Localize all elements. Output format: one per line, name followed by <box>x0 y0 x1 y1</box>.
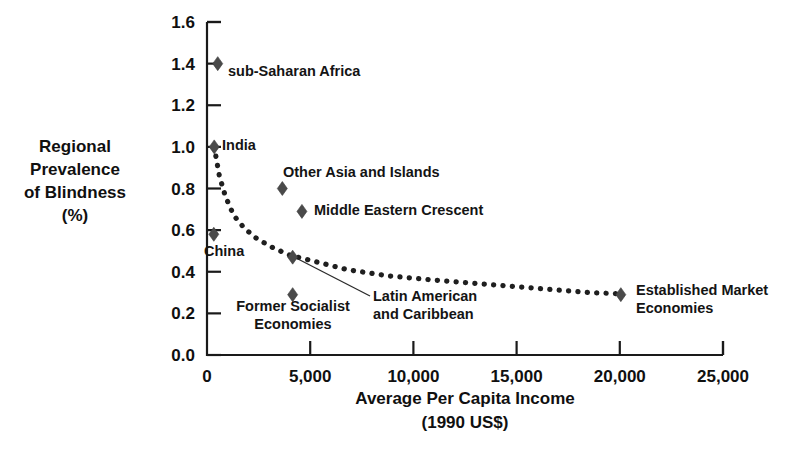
y-tick-label: 0.2 <box>171 304 195 323</box>
chart-canvas: Regional Prevalence of Blindness (%) 0.0… <box>0 0 799 454</box>
y-axis: 0.00.20.40.60.81.01.21.41.6 <box>171 13 221 365</box>
label-middle-eastern-crescent: Middle Eastern Crescent <box>314 202 483 218</box>
data-point-marker <box>297 204 307 218</box>
y-tick-label: 0.0 <box>171 346 195 365</box>
x-tick-label: 10,000 <box>387 367 439 386</box>
label-sub-saharan-africa: sub-Saharan Africa <box>228 63 361 79</box>
x-tick-label: 15,000 <box>491 367 543 386</box>
label-other-asia-and-islands: Other Asia and Islands <box>283 164 440 180</box>
x-axis: 05,00010,00015,00020,00025,000 <box>202 341 749 386</box>
label-former-socialist-line-2: Economies <box>254 316 331 332</box>
data-point-marker <box>213 57 223 71</box>
y-tick-label: 1.4 <box>171 55 195 74</box>
y-axis-title-line-4: (%) <box>62 206 88 225</box>
x-tick-label: 0 <box>202 367 211 386</box>
data-point-marker <box>616 288 626 302</box>
x-tick-label: 5,000 <box>289 367 332 386</box>
label-latin-american-line-1: Latin American <box>373 288 477 304</box>
label-china: China <box>204 243 245 259</box>
y-axis-title-line-1: Regional <box>39 137 111 156</box>
x-tick-label: 25,000 <box>697 367 749 386</box>
label-former-socialist-line-1: Former Socialist <box>236 298 350 314</box>
y-tick-label: 0.6 <box>171 221 195 240</box>
label-latin-american-line-2: and Caribbean <box>373 306 474 322</box>
label-india: India <box>222 137 257 153</box>
x-tick-label: 20,000 <box>594 367 646 386</box>
y-tick-label: 0.8 <box>171 180 195 199</box>
data-point-marker <box>288 250 298 264</box>
y-axis-title-line-3: of Blindness <box>24 183 126 202</box>
y-tick-label: 0.4 <box>171 263 195 282</box>
y-tick-label: 1.0 <box>171 138 195 157</box>
x-axis-title-units: (1990 US$) <box>422 413 509 432</box>
label-established-market-line-2: Economies <box>636 300 713 316</box>
y-tick-label: 1.2 <box>171 96 195 115</box>
data-point-marker <box>277 182 287 196</box>
data-point-marker <box>209 140 219 154</box>
y-axis-title: Regional Prevalence of Blindness (%) <box>24 137 126 225</box>
y-tick-label: 1.6 <box>171 13 195 32</box>
blindness-prevalence-scatter-chart: Regional Prevalence of Blindness (%) 0.0… <box>0 0 799 454</box>
y-axis-title-line-2: Prevalence <box>30 160 120 179</box>
x-axis-title: Average Per Capita Income <box>355 389 575 408</box>
label-established-market-line-1: Established Market <box>636 282 768 298</box>
